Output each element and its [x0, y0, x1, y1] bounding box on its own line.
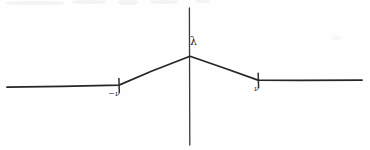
tick-label-negative-nu: −ν	[108, 90, 120, 98]
tick-label-positive-nu: ν	[254, 85, 259, 93]
figure-canvas: λ −ν ν	[0, 0, 370, 150]
plot-drawing	[0, 0, 370, 150]
piecewise-linear-curve	[7, 56, 362, 87]
apex-label-lambda: λ	[190, 36, 197, 47]
